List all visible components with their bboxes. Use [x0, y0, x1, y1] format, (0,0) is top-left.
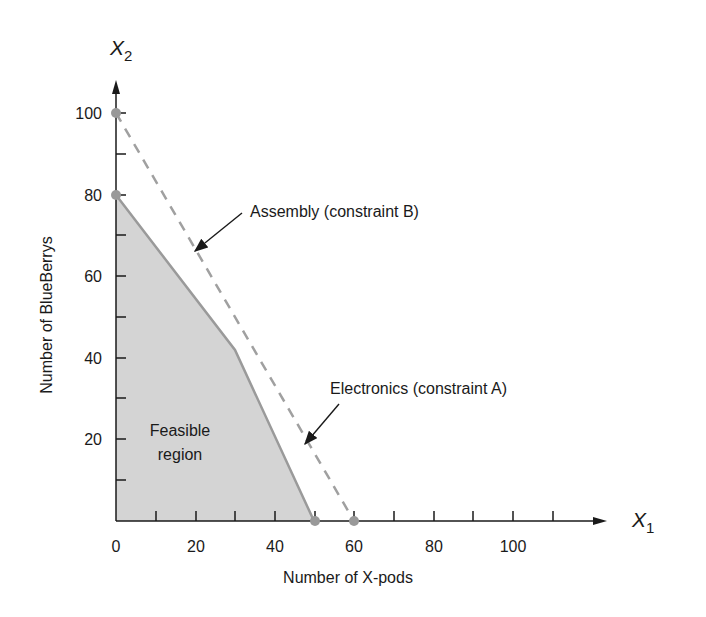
y-tick-label: 40 [84, 350, 102, 367]
feasible-region-label: Feasible [150, 422, 211, 439]
y-tick-label: 100 [75, 105, 102, 122]
feasible-region-label: region [158, 446, 202, 463]
x1-axis-variable: X1 [631, 508, 654, 536]
electronics-annotation: Electronics (constraint A) [330, 380, 507, 397]
assembly-arrow-icon [195, 213, 242, 251]
x-axis-arrow-icon [593, 517, 607, 525]
y-axis-arrow-icon [112, 80, 120, 94]
x-tick-label: 20 [187, 538, 205, 555]
feasible-region-chart: 100 80 60 40 20 0 20 40 60 80 100 Number… [0, 0, 706, 617]
x-tick-label: 100 [500, 538, 527, 555]
feasible-region [116, 195, 314, 521]
electronics-arrow-icon [305, 404, 339, 444]
x-tick-label: 80 [425, 538, 443, 555]
x-tick-label: 0 [112, 538, 121, 555]
x-tick-label: 60 [345, 538, 363, 555]
y-tick-label: 60 [84, 268, 102, 285]
x-axis-title: Number of X-pods [283, 569, 413, 586]
y-tick-label: 20 [84, 431, 102, 448]
x2-axis-variable: X2 [109, 36, 132, 64]
y-tick-label: 80 [84, 187, 102, 204]
assembly-annotation: Assembly (constraint B) [250, 203, 419, 220]
y-axis-title: Number of BlueBerrys [38, 236, 55, 393]
x-tick-label: 40 [266, 538, 284, 555]
